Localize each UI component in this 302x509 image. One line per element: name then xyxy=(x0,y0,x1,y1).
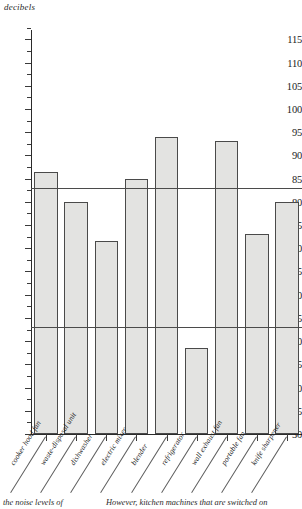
y-tick-70 xyxy=(25,248,31,249)
y-tick-75 xyxy=(25,225,31,226)
y-tick-label-95: 95 xyxy=(278,127,302,138)
x-tick-7 xyxy=(257,434,258,441)
y-tick-85 xyxy=(25,179,31,180)
y-minor-tick-42.5 xyxy=(27,376,31,377)
y-tick-90 xyxy=(25,155,31,156)
y-minor-tick-top xyxy=(27,28,31,29)
bar-portable-fan xyxy=(245,234,268,434)
y-tick-45 xyxy=(25,364,31,365)
y-tick-40 xyxy=(25,388,31,389)
decibels-bar-chart: decibels 1151101051009590858075706560555… xyxy=(0,0,302,509)
bar-knife-sharpener xyxy=(275,202,298,434)
y-tick-100 xyxy=(25,109,31,110)
x-axis-label-dishwasher: dishwasher xyxy=(68,432,95,467)
x-tick-8 xyxy=(287,434,288,441)
y-minor-tick-87.5 xyxy=(27,167,31,168)
y-tick-label-90: 90 xyxy=(278,150,302,161)
y-tick-label-115: 115 xyxy=(278,34,302,45)
y-tick-label-85: 85 xyxy=(278,173,302,184)
y-minor-tick-112.5 xyxy=(27,51,31,52)
y-minor-tick-82.5 xyxy=(27,190,31,191)
y-minor-tick-67.5 xyxy=(27,260,31,261)
y-minor-tick-32.5 xyxy=(27,422,31,423)
y-minor-tick-97.5 xyxy=(27,121,31,122)
y-tick-65 xyxy=(25,271,31,272)
y-minor-tick-107.5 xyxy=(27,74,31,75)
x-axis-label-refrigerator: refrigerator xyxy=(159,431,186,467)
x-tick-3 xyxy=(136,434,137,441)
y-minor-tick-77.5 xyxy=(27,213,31,214)
x-tick-5 xyxy=(197,434,198,441)
y-tick-80 xyxy=(25,202,31,203)
y-tick-105 xyxy=(25,86,31,87)
y-tick-50 xyxy=(25,341,31,342)
y-axis-title: decibels xyxy=(4,2,35,12)
y-minor-tick-52.5 xyxy=(27,330,31,331)
y-minor-tick-92.5 xyxy=(27,144,31,145)
x-tick-0 xyxy=(46,434,47,441)
x-tick-1 xyxy=(76,434,77,441)
bar-blender xyxy=(155,137,178,434)
bar-wall-exhaust-fan xyxy=(215,141,238,434)
x-axis-label-portable-fan: portable fan xyxy=(219,429,247,466)
y-minor-tick-47.5 xyxy=(27,353,31,354)
y-tick-label-110: 110 xyxy=(278,57,302,68)
y-minor-tick-62.5 xyxy=(27,283,31,284)
bar-cooker-hood-fan xyxy=(34,172,57,434)
caption-right: However, kitchen machines that are switc… xyxy=(106,498,267,507)
caption-left: the noise levels of xyxy=(3,498,63,507)
bar-electric-mixer xyxy=(125,179,148,434)
x-axis-label-blender: blender xyxy=(129,442,149,467)
y-tick-95 xyxy=(25,132,31,133)
y-axis-line xyxy=(31,30,32,435)
bar-waste-disposal-unit xyxy=(64,202,87,434)
y-tick-110 xyxy=(25,63,31,64)
y-tick-60 xyxy=(25,295,31,296)
y-tick-115 xyxy=(25,39,31,40)
y-tick-label-105: 105 xyxy=(278,80,302,91)
x-axis-label-cooker-hood-fan: cooker hood fan xyxy=(8,419,43,467)
y-minor-tick-102.5 xyxy=(27,97,31,98)
y-minor-tick-37.5 xyxy=(27,399,31,400)
y-minor-tick-57.5 xyxy=(27,306,31,307)
y-tick-35 xyxy=(25,411,31,412)
y-tick-55 xyxy=(25,318,31,319)
bar-dishwasher xyxy=(95,241,118,434)
y-minor-tick-72.5 xyxy=(27,237,31,238)
y-tick-label-100: 100 xyxy=(278,103,302,114)
reference-line-upper-threshold xyxy=(31,188,302,189)
reference-line-lower-threshold xyxy=(31,327,302,328)
x-tick-2 xyxy=(106,434,107,441)
bar-refrigerator xyxy=(185,348,208,434)
x-tick-6 xyxy=(227,434,228,441)
